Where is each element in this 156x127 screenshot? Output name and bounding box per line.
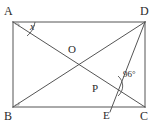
cevian-DE (110, 22, 145, 112)
point-label-p: P (92, 83, 98, 94)
vertex-label-b: B (4, 110, 12, 122)
point-label-e: E (103, 110, 110, 121)
angle-label-x: x (30, 22, 34, 32)
vertex-label-d: D (140, 5, 149, 17)
vertex-label-c: C (140, 110, 148, 122)
geometry-canvas (0, 0, 156, 127)
angle-label-96: 96° (123, 70, 136, 79)
geometry-figure: A D B C E O P x 96° (0, 0, 156, 127)
point-label-o: O (68, 44, 76, 55)
vertex-label-a: A (4, 5, 13, 17)
